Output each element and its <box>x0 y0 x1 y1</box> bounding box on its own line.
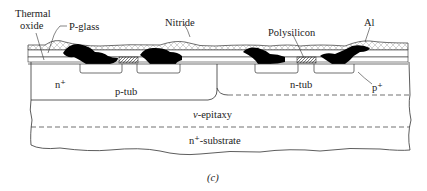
label-epitaxy: ν-epitaxy <box>193 109 233 120</box>
polysilicon-gate-right <box>297 57 316 63</box>
label-thermal-oxide-line1: Thermal <box>15 8 51 19</box>
cmos-cross-section-figure: Thermal oxide P-glass Nitride Polysilico… <box>0 0 427 191</box>
label-p-plus: p⁺ <box>372 82 383 93</box>
label-substrate: n⁺-substrate <box>189 135 241 146</box>
label-n-tub: n-tub <box>290 79 312 90</box>
leader-al <box>365 27 370 42</box>
label-p-glass: P-glass <box>69 21 99 32</box>
epitaxy-text: -epitaxy <box>198 109 233 120</box>
figure-caption: (c) <box>207 172 219 184</box>
polysilicon-gate-left <box>119 57 138 63</box>
label-n-plus: n⁺ <box>55 79 66 90</box>
cross-section-diagram: Thermal oxide P-glass Nitride Polysilico… <box>0 0 427 191</box>
label-thermal-oxide-line2: oxide <box>20 20 44 31</box>
label-polysilicon: Polysilicon <box>268 27 316 38</box>
label-al: Al <box>364 17 375 28</box>
label-nitride: Nitride <box>165 17 195 28</box>
label-p-tub: p-tub <box>115 86 137 97</box>
